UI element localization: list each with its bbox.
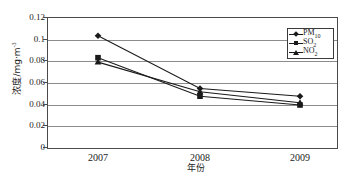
legend-label-no2: NO2 bbox=[303, 46, 318, 59]
legend-marker-triangle-icon bbox=[289, 48, 303, 57]
chart-figure: 0.12 0.1 0.08 0.06 0.04 0.02 0 2007 2008… bbox=[0, 0, 350, 186]
legend-item-no2: NO2 bbox=[289, 48, 333, 57]
data-point-pm10-2007 bbox=[95, 32, 102, 39]
legend-marker-diamond-icon bbox=[289, 30, 303, 39]
data-point-pm10-2009 bbox=[297, 93, 304, 100]
chart-legend: PM10 SO2 NO2 bbox=[287, 28, 334, 59]
legend-marker-square-icon bbox=[289, 39, 303, 48]
legend-sub-no2: 2 bbox=[315, 51, 318, 57]
